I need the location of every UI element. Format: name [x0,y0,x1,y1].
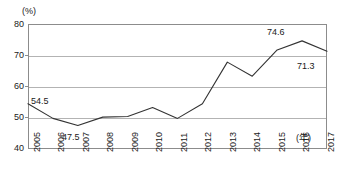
line-chart: (%) 80 70 60 50 40 54.5 47.5 74.6 71.3 (… [0,0,343,191]
x-axis-tick-2013: 2013 [228,141,239,152]
data-label-2016: 74.6 [267,28,285,37]
x-axis-tick-2015: 2015 [277,141,288,152]
y-axis-tick-40: 40 [0,144,24,153]
x-axis-tick-2010: 2010 [154,141,165,152]
x-axis-tick-2007: 2007 [81,141,92,152]
data-label-2005: 54.5 [31,97,49,106]
y-axis-unit-label: (%) [22,6,36,16]
data-series-line [28,24,327,149]
x-axis-tick-2016: 2016 [301,141,312,152]
x-axis-tick-2006: 2006 [56,141,67,152]
y-axis-tick-80: 80 [0,20,24,29]
y-axis-tick-60: 60 [0,82,24,91]
y-axis-tick-50: 50 [0,113,24,122]
x-axis-tick-2012: 2012 [203,141,214,152]
data-label-2017: 71.3 [297,62,315,71]
x-axis-tick-2008: 2008 [105,141,116,152]
x-axis-tick-2017: 2017 [326,141,337,152]
x-axis-tick-2005: 2005 [32,141,43,152]
x-axis-tick-2014: 2014 [252,141,263,152]
x-axis-tick-2009: 2009 [130,141,141,152]
x-axis-tick-2011: 2011 [179,141,190,152]
y-axis-tick-70: 70 [0,51,24,60]
